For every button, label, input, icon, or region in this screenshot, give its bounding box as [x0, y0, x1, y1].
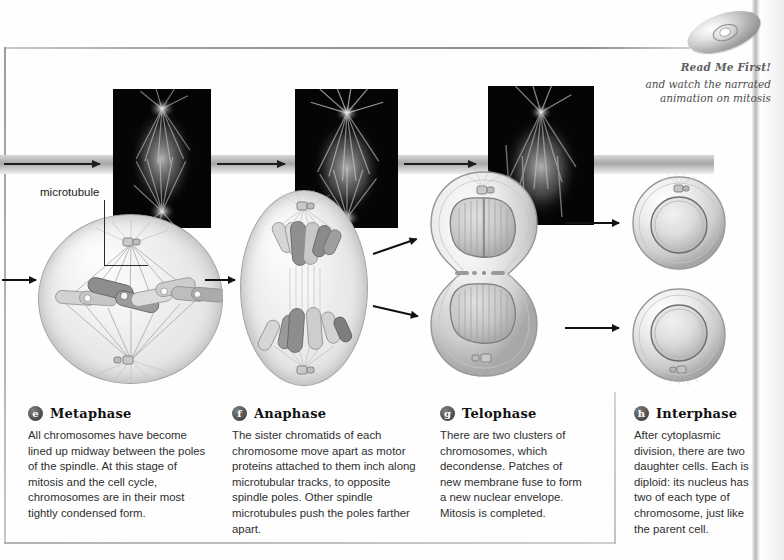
arrow-telophase-to-interphase-upper: [565, 222, 619, 224]
stage-title-telophase: Telophase: [462, 406, 536, 421]
interphase-daughter-cell-2: [629, 285, 729, 385]
read-me-first-callout: Read Me First! and watch the narrated an…: [596, 60, 771, 105]
caption-telophase-header: g Telophase: [440, 406, 585, 421]
centrosome-bottom: [114, 356, 133, 364]
microtubule-leader-line-vertical: [104, 200, 105, 266]
caption-interphase-header: h Interphase: [634, 406, 752, 421]
stage-body-telophase: There are two clusters of chromosomes, w…: [440, 428, 585, 522]
centrosome: [670, 366, 686, 373]
band-arrow-3: [404, 163, 476, 165]
read-me-first-subtitle: and watch the narrated animation on mito…: [596, 77, 771, 105]
stage-body-metaphase: All chromosomes have become lined up mid…: [28, 428, 214, 522]
band-arrow-2: [217, 163, 285, 165]
stage-title-metaphase: Metaphase: [50, 406, 131, 421]
frame-bottom-border: [4, 542, 616, 544]
telophase-cell-illustration: [425, 168, 543, 380]
incoming-arrow: [2, 279, 36, 281]
chromatids-top: [270, 220, 343, 266]
stage-badge-h: h: [634, 406, 649, 421]
arrow-band-4: [594, 155, 714, 174]
stage-badge-e: e: [28, 406, 43, 421]
centrosome-top: [477, 186, 494, 194]
interphase-cell-2-diagram: [629, 285, 729, 385]
centrosome-top: [297, 202, 314, 210]
caption-anaphase-header: f Anaphase: [232, 406, 422, 421]
centrosome: [674, 185, 689, 192]
interphase-cell-1-diagram: [629, 173, 729, 273]
arrow-anaphase-to-telophase-upper: [373, 238, 417, 254]
caption-metaphase-header: e Metaphase: [28, 406, 214, 421]
caption-metaphase: e Metaphase All chromosomes have become …: [28, 406, 214, 522]
stage-body-anaphase: The sister chromatids of each chromosome…: [232, 428, 422, 537]
interpolar-microtubules: [290, 264, 320, 314]
band-arrow-1: [4, 163, 100, 165]
figure-page: Read Me First! and watch the narrated an…: [0, 0, 784, 560]
centrosome-top: [123, 238, 140, 246]
microtubule-leader-line-horizontal: [104, 265, 148, 266]
arrow-anaphase-to-telophase-lower: [373, 305, 418, 317]
chromosome-group: [55, 276, 223, 314]
anaphase-cell-illustration: [240, 190, 368, 386]
arrow-metaphase-to-anaphase: [205, 279, 235, 281]
stage-badge-g: g: [440, 406, 455, 421]
read-me-first-title: Read Me First!: [596, 60, 771, 74]
metaphase-spindle-fluorescence: [113, 89, 211, 228]
stage-body-interphase: After cytoplasmic division, there are tw…: [634, 428, 752, 537]
nucleus-upper: [450, 198, 515, 257]
chromatids-bottom: [256, 307, 354, 353]
read-me-subtitle-line1: and watch the narrated: [645, 78, 771, 90]
stage-title-interphase: Interphase: [656, 406, 737, 421]
frame-left-border: [4, 47, 6, 544]
stage-title-anaphase: Anaphase: [254, 406, 326, 421]
stage-badge-f: f: [232, 406, 247, 421]
frame-top-border: [4, 47, 690, 49]
nucleus-lower: [450, 284, 515, 343]
metaphase-cell-illustration: [38, 214, 223, 384]
read-me-subtitle-line2: animation on mitosis: [660, 92, 771, 104]
caption-interphase: h Interphase After cytoplasmic division,…: [634, 406, 752, 537]
interphase-daughter-cell-1: [629, 173, 729, 273]
telophase-cell-diagram: [425, 168, 543, 380]
centrosome-bottom: [297, 366, 314, 374]
metaphase-spindle-diagram: [38, 214, 223, 384]
arrow-telophase-to-interphase-lower: [565, 327, 619, 329]
caption-telophase: g Telophase There are two clusters of ch…: [440, 406, 585, 522]
caption-anaphase: f Anaphase The sister chromatids of each…: [232, 406, 422, 537]
metaphase-micrograph: [113, 89, 211, 228]
caption-divider: [614, 392, 616, 544]
microtubule-label: microtubule: [40, 186, 99, 198]
centrosome-bottom: [472, 354, 491, 362]
anaphase-spindle-diagram: [240, 190, 368, 386]
